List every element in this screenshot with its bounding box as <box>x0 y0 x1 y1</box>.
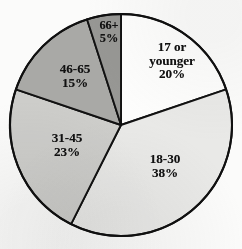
pie-slice-label-line: younger <box>132 54 212 68</box>
pie-slice-label-17-or-younger: 17 or younger 20% <box>132 40 212 81</box>
pie-slice-label-line: 31-45 <box>30 131 104 145</box>
pie-slice-value: 20% <box>132 67 212 81</box>
pie-slice-value: 38% <box>128 166 202 180</box>
pie-slice-label-line: 46-65 <box>38 62 112 76</box>
pie-slice-value: 5% <box>84 32 134 45</box>
pie-slice-label-31-45: 31-45 23% <box>30 131 104 158</box>
pie-slice-value: 23% <box>30 145 104 159</box>
pie-slice-value: 15% <box>38 76 112 90</box>
pie-chart-figure: 17 or younger 20% 18-30 38% 31-45 23% 46… <box>0 0 242 249</box>
pie-slice-label-66-plus: 66+ 5% <box>84 19 134 45</box>
pie-slice-label-18-30: 18-30 38% <box>128 152 202 179</box>
pie-slice-label-line: 18-30 <box>128 152 202 166</box>
pie-slice-label-46-65: 46-65 15% <box>38 62 112 89</box>
pie-slice-label-line: 17 or <box>132 40 212 54</box>
pie-slice-label-line: 66+ <box>84 19 134 32</box>
